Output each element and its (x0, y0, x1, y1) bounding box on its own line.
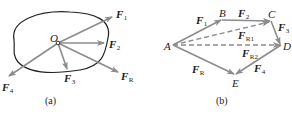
point-c-label: C (268, 9, 275, 20)
force-f3-label: F3 (64, 73, 75, 86)
origin-label: O (50, 33, 58, 44)
caption-b: (b) (216, 96, 228, 106)
point-d-label: D (283, 41, 291, 52)
vector-fr2-label: FR2 (242, 48, 258, 61)
vector-fr1-dashed-arrow (173, 22, 269, 45)
force-f4-label: F4 (2, 82, 13, 95)
point-b-label: B (219, 8, 226, 19)
point-e-label: E (232, 78, 239, 89)
vector-fr1-label: FR1 (238, 30, 254, 43)
force-diagram: O F1 F2 F3 F4 FR (a) A B C D E F1 F2 F3 … (0, 0, 292, 117)
force-f1-label: F1 (116, 9, 127, 22)
caption-a: (a) (45, 96, 56, 106)
vector-fr-label: FR (192, 64, 205, 77)
vector-f1-label: F1 (196, 15, 207, 28)
point-a-label: A (164, 41, 171, 52)
force-f1-arrow (58, 17, 112, 43)
force-f2-label: F2 (109, 39, 120, 52)
vector-f4-label: F4 (254, 63, 265, 76)
vector-f3-label: F3 (278, 22, 289, 35)
force-fr-label: FR (121, 71, 134, 84)
vector-f2-label: F2 (238, 8, 249, 21)
